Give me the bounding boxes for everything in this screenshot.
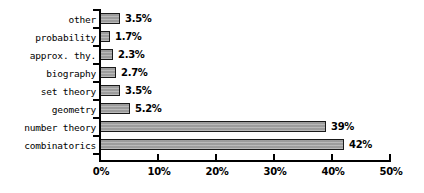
y-axis-tick bbox=[93, 117, 101, 119]
x-axis-tick bbox=[331, 154, 333, 162]
x-axis-tick-label: 10% bbox=[134, 166, 184, 177]
bar-set-theory bbox=[100, 85, 120, 96]
x-axis-tick bbox=[99, 154, 101, 162]
category-label: approx. thy. bbox=[0, 51, 96, 61]
x-axis-tick bbox=[157, 154, 159, 162]
x-axis-tick-label: 40% bbox=[308, 166, 358, 177]
category-label: set theory bbox=[0, 87, 96, 97]
y-axis-tick bbox=[93, 45, 101, 47]
bar-value-label: 1.7% bbox=[115, 31, 142, 42]
bar-biography bbox=[100, 67, 116, 78]
bar-value-label: 2.3% bbox=[118, 49, 145, 60]
bar-value-label: 3.5% bbox=[125, 85, 152, 96]
y-axis-tick bbox=[93, 27, 101, 29]
y-axis-tick bbox=[93, 63, 101, 65]
x-axis-tick-label: 50% bbox=[366, 166, 416, 177]
bar-combinatorics bbox=[100, 139, 344, 150]
bar-value-label: 5.2% bbox=[135, 103, 162, 114]
y-axis-tick bbox=[93, 9, 101, 11]
category-label: biography bbox=[0, 69, 96, 79]
x-axis-tick-label: 20% bbox=[192, 166, 242, 177]
bar-probability bbox=[100, 31, 110, 42]
x-axis-tick bbox=[273, 154, 275, 162]
bar-geometry bbox=[100, 103, 130, 114]
y-axis-tick bbox=[93, 99, 101, 101]
x-axis-line bbox=[99, 160, 391, 162]
bar-number-theory bbox=[100, 121, 326, 132]
y-axis-line bbox=[99, 9, 101, 161]
category-label: geometry bbox=[0, 105, 96, 115]
x-axis-tick bbox=[215, 154, 217, 162]
bar-value-label: 39% bbox=[331, 121, 354, 132]
bar-value-label: 3.5% bbox=[125, 13, 152, 24]
bar-other bbox=[100, 13, 120, 24]
x-axis-tick bbox=[389, 154, 391, 162]
bar-value-label: 2.7% bbox=[121, 67, 148, 78]
category-label: number theory bbox=[0, 123, 96, 133]
x-axis-tick-label: 0% bbox=[76, 166, 126, 177]
bar-chart: other probability approx. thy. biography… bbox=[0, 0, 424, 193]
category-label: other bbox=[0, 15, 96, 25]
bar-value-label: 42% bbox=[349, 139, 372, 150]
y-axis-tick bbox=[93, 135, 101, 137]
y-axis-tick bbox=[93, 81, 101, 83]
category-label: combinatorics bbox=[0, 141, 96, 151]
bar-approx-thy bbox=[100, 49, 113, 60]
x-axis-tick-label: 30% bbox=[250, 166, 300, 177]
category-label: probability bbox=[0, 33, 96, 43]
